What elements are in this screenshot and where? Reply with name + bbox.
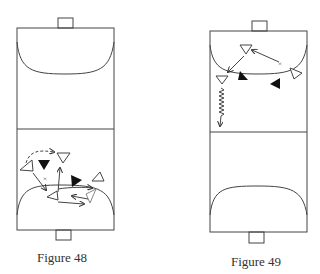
figure-49-caption: Figure 49	[231, 254, 281, 270]
attacker-triangle-icon	[216, 76, 228, 84]
goal-top	[58, 18, 73, 28]
figure-48-court	[17, 18, 114, 240]
goal-bottom	[56, 230, 71, 240]
figure-48-play: × ×	[20, 151, 104, 204]
attacker-triangle-icon	[240, 45, 252, 54]
defender-triangle-icon	[238, 71, 248, 80]
goal-top	[252, 21, 267, 31]
goal-area-top	[17, 42, 114, 74]
dribble-zigzag-arrow	[219, 88, 224, 126]
goal-bottom	[249, 232, 264, 243]
goal-area-bottom	[17, 185, 114, 215]
svg-text:×: ×	[278, 60, 282, 68]
attacker-triangle-icon	[290, 68, 302, 79]
defender-triangle-icon	[270, 78, 280, 89]
figure-49-court	[210, 21, 307, 243]
attacker-triangle-icon	[92, 172, 104, 181]
defender-triangle-icon	[38, 160, 50, 170]
svg-text:×: ×	[43, 175, 47, 183]
figure-48-caption: Figure 48	[37, 250, 87, 266]
attacker-triangle-icon	[47, 191, 58, 200]
figure-49-play: ×	[216, 45, 302, 126]
svg-text:×: ×	[90, 184, 94, 192]
attacker-triangle-icon	[57, 153, 70, 163]
diagram-canvas: × × ×	[0, 0, 320, 274]
goal-area-bottom	[210, 186, 307, 215]
